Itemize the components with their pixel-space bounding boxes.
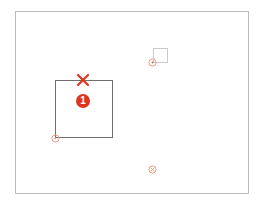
close-x-icon[interactable] xyxy=(76,73,90,87)
canvas-frame xyxy=(15,11,249,194)
crosshair-target-icon[interactable] xyxy=(148,165,157,174)
step-number-badge: 1 xyxy=(76,94,90,108)
crosshair-target-icon[interactable] xyxy=(51,134,60,143)
crosshair-target-icon[interactable] xyxy=(148,58,157,67)
selected-region-box[interactable] xyxy=(55,80,113,138)
